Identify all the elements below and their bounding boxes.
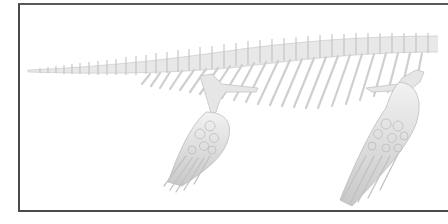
vertebral-column	[28, 33, 438, 75]
fore-flipper	[340, 70, 424, 206]
hind-flipper	[164, 74, 258, 192]
